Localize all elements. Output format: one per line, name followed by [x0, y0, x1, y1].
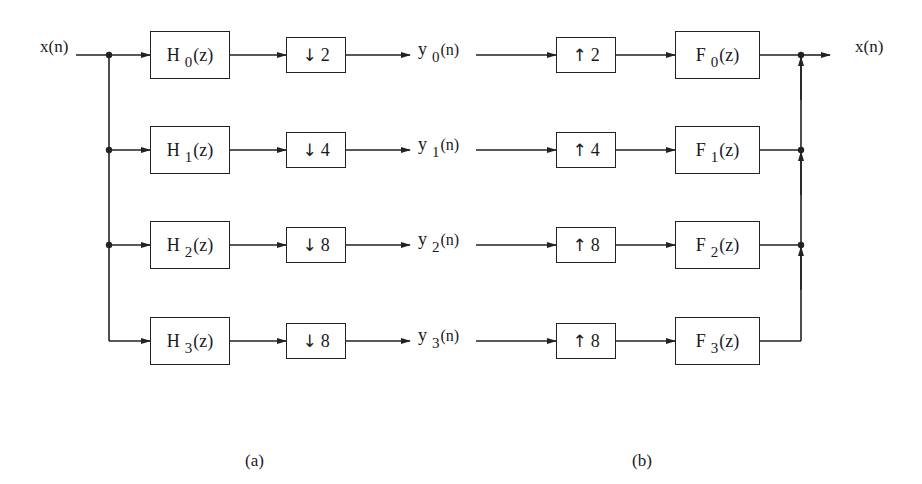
down-arrow-icon: ↓ — [302, 235, 316, 255]
analysis-filter-2: H2(z) — [150, 221, 230, 269]
filter-index: 0 — [711, 54, 719, 71]
signal-arg: (n) — [441, 136, 460, 153]
synthesis-filter-2: F2(z) — [675, 221, 760, 269]
analysis-filter-3: H3(z) — [150, 317, 230, 365]
subband-signal-1: y1(n) — [418, 135, 459, 153]
analysis-filter-0: H0(z) — [150, 31, 230, 79]
down-arrow-icon: ↓ — [302, 45, 316, 65]
up-arrow-icon: ↑ — [572, 331, 586, 351]
subband-signal-2: y2(n) — [418, 230, 459, 248]
downsample-factor: 2 — [321, 45, 330, 66]
filter-arg: (z) — [193, 140, 213, 161]
filter-name: H — [167, 140, 180, 161]
analysis-filter-1: H1(z) — [150, 126, 230, 174]
signal-name: y — [418, 229, 427, 249]
down-arrow-icon: ↓ — [302, 331, 316, 351]
filter-arg: (z) — [193, 235, 213, 256]
signal-arg: (n) — [441, 327, 460, 344]
upsampler-1: ↑4 — [556, 132, 616, 168]
downsample-factor: 8 — [321, 235, 330, 256]
up-arrow-icon: ↑ — [572, 140, 586, 160]
signal-arg: (n) — [441, 41, 460, 58]
filter-arg: (z) — [719, 45, 739, 66]
signal-index: 1 — [432, 144, 440, 160]
caption-a: (a) — [245, 451, 264, 471]
signal-name: y — [418, 39, 427, 59]
synthesis-filter-3: F3(z) — [675, 317, 760, 365]
down-arrow-icon: ↓ — [302, 140, 316, 160]
filter-name: H — [167, 331, 180, 352]
upsample-factor: 4 — [591, 140, 600, 161]
up-arrow-icon: ↑ — [572, 235, 586, 255]
downsampler-0: ↓2 — [286, 37, 346, 73]
filter-arg: (z) — [719, 140, 739, 161]
signal-index: 0 — [432, 49, 440, 65]
filter-name: F — [696, 140, 706, 161]
up-arrow-icon: ↑ — [572, 45, 586, 65]
input-label: x(n) — [40, 38, 68, 55]
downsampler-2: ↓8 — [286, 227, 346, 263]
filter-arg: (z) — [719, 235, 739, 256]
signal-name: y — [418, 325, 427, 345]
downsampler-1: ↓4 — [286, 132, 346, 168]
filter-arg: (z) — [193, 45, 213, 66]
filter-index: 2 — [185, 244, 193, 261]
upsample-factor: 8 — [591, 331, 600, 352]
downsampler-3: ↓8 — [286, 323, 346, 359]
filter-name: F — [696, 235, 706, 256]
caption-b: (b) — [632, 451, 652, 471]
signal-index: 2 — [432, 239, 440, 255]
upsample-factor: 8 — [591, 235, 600, 256]
filter-index: 0 — [185, 54, 193, 71]
filter-index: 1 — [711, 149, 719, 166]
filter-name: F — [696, 45, 706, 66]
filter-index: 3 — [185, 340, 193, 357]
subband-signal-3: y3(n) — [418, 326, 459, 344]
signal-lines — [0, 0, 922, 484]
filter-index: 1 — [185, 149, 193, 166]
filter-name: H — [167, 235, 180, 256]
downsample-factor: 4 — [321, 140, 330, 161]
filter-arg: (z) — [193, 331, 213, 352]
downsample-factor: 8 — [321, 331, 330, 352]
filter-name: H — [167, 45, 180, 66]
filter-index: 2 — [711, 244, 719, 261]
upsampler-3: ↑8 — [556, 323, 616, 359]
filter-name: F — [696, 331, 706, 352]
signal-name: y — [418, 134, 427, 154]
filter-index: 3 — [711, 340, 719, 357]
output-label: x(n) — [855, 38, 883, 55]
upsample-factor: 2 — [591, 45, 600, 66]
subband-signal-0: y0(n) — [418, 40, 459, 58]
signal-arg: (n) — [441, 231, 460, 248]
signal-index: 3 — [432, 335, 440, 351]
synthesis-filter-0: F0(z) — [675, 31, 760, 79]
filter-arg: (z) — [719, 331, 739, 352]
upsampler-0: ↑2 — [556, 37, 616, 73]
synthesis-filter-1: F1(z) — [675, 126, 760, 174]
upsampler-2: ↑8 — [556, 227, 616, 263]
